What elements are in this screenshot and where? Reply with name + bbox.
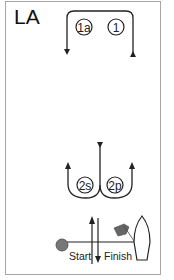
mark-2s: 2s bbox=[77, 177, 93, 193]
arrow-down-icon bbox=[97, 142, 103, 148]
finish-label: Finish bbox=[104, 250, 132, 262]
mark-1a: 1a bbox=[76, 19, 92, 35]
mark-2p: 2p bbox=[107, 177, 123, 193]
mark-2s-label: 2s bbox=[79, 179, 92, 193]
arrow-down-icon bbox=[64, 49, 70, 55]
mark-2p-label: 2p bbox=[108, 179, 122, 193]
arrow-up-icon bbox=[89, 216, 95, 224]
arrow-up-icon bbox=[129, 162, 135, 169]
mark-1-label: 1 bbox=[113, 21, 120, 35]
mark-1a-label: 1a bbox=[77, 21, 91, 35]
start-label: Start bbox=[69, 250, 91, 262]
arrow-up-icon bbox=[65, 162, 71, 169]
arrow-up-icon bbox=[130, 51, 136, 57]
pin-mark-icon bbox=[56, 239, 68, 251]
arrow-down-icon bbox=[95, 256, 101, 263]
gate-rounding-path bbox=[68, 146, 132, 198]
mark-1: 1 bbox=[108, 19, 124, 35]
course-diagram: 1a 1 2s 2p Start Finish bbox=[0, 0, 174, 280]
committee-boat-icon bbox=[134, 216, 150, 260]
